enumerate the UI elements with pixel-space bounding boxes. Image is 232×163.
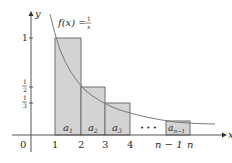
function-denominator: x	[87, 23, 91, 30]
harmonic-rectangles-diagram: y x 0 1 1 2 1 3 1 2 3 4 n − 1 n a1 a2 a3…	[0, 0, 232, 163]
rect-a1	[55, 38, 81, 135]
y-tick-label-third-den: 3	[23, 102, 27, 109]
ellipsis: • • •	[140, 124, 157, 132]
x-tick-label-3: 3	[102, 139, 108, 150]
function-label: f(x) =	[57, 17, 87, 28]
x-tick-label-n-minus-1: n − 1	[155, 139, 183, 150]
x-tick-label-1: 1	[52, 139, 58, 150]
y-axis-arrow-icon	[29, 11, 34, 16]
y-tick-label-third-num: 1	[23, 94, 27, 101]
x-tick-label-n: n	[187, 139, 193, 150]
origin-label: 0	[20, 139, 26, 150]
y-tick-label-1: 1	[22, 33, 28, 43]
y-tick-label-half-num: 1	[23, 78, 27, 85]
y-tick-label-half-den: 2	[23, 86, 27, 93]
function-numerator: 1	[87, 15, 91, 22]
x-axis-label: x	[228, 129, 232, 140]
x-axis-arrow-icon	[222, 133, 227, 138]
x-tick-label-2: 2	[78, 139, 84, 150]
x-tick-label-4: 4	[127, 139, 133, 150]
y-axis-label: y	[34, 8, 41, 19]
